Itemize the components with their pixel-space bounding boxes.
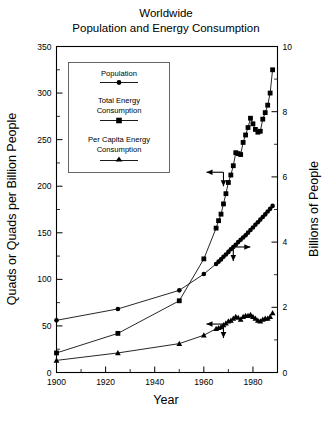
data-point-square bbox=[214, 226, 219, 231]
y-tick-label-left: 100 bbox=[37, 274, 51, 284]
x-axis-label: Year bbox=[153, 393, 178, 407]
legend-marker-square-icon bbox=[116, 118, 122, 124]
legend-marker-circle-icon bbox=[117, 80, 122, 85]
y-axis-ticks-right: 0246810 bbox=[272, 42, 293, 378]
x-tick-label: 1980 bbox=[243, 377, 262, 387]
data-point-square bbox=[221, 202, 226, 207]
arrow-head-vertical bbox=[231, 255, 237, 261]
chart-title-line2: Population and Energy Consumption bbox=[72, 22, 259, 34]
y-tick-label-right: 0 bbox=[283, 368, 288, 378]
data-point-square bbox=[241, 140, 246, 145]
legend-label-per-capita-line2: Consumption bbox=[97, 145, 142, 154]
legend-box bbox=[69, 63, 170, 173]
y-axis-ticks-left: 050100150200250300350 bbox=[37, 42, 62, 378]
y-tick-label-right: 10 bbox=[283, 42, 293, 52]
legend-label-population: Population bbox=[101, 69, 137, 78]
data-point-square bbox=[177, 298, 182, 303]
y-tick-label-right: 2 bbox=[283, 302, 288, 312]
data-point-circle bbox=[270, 204, 275, 209]
chart-legend: Population Total Energy Consumption Per … bbox=[69, 63, 170, 173]
data-point-square bbox=[219, 212, 224, 217]
data-point-square bbox=[251, 121, 256, 126]
x-axis-ticks: 19001920194019601980 bbox=[47, 367, 277, 387]
data-point-circle bbox=[116, 307, 121, 312]
data-point-circle bbox=[202, 272, 207, 277]
chart-figure: Worldwide Population and Energy Consumpt… bbox=[0, 0, 328, 421]
chart-title-line1: Worldwide bbox=[139, 7, 192, 19]
y-axis-label-left: Quads or Quads per Billion People bbox=[5, 113, 19, 306]
data-point-triangle bbox=[270, 310, 276, 315]
arrow-head-horizontal bbox=[206, 321, 212, 327]
arrow-head-vertical bbox=[221, 180, 227, 186]
y-tick-label-left: 300 bbox=[37, 88, 51, 98]
legend-label-per-capita-line1: Per Capita Energy bbox=[88, 135, 150, 144]
arrow-head-horizontal bbox=[244, 244, 250, 250]
data-point-circle bbox=[54, 318, 59, 323]
data-point-square bbox=[228, 173, 233, 178]
data-point-square bbox=[224, 191, 229, 196]
data-point-square bbox=[201, 256, 206, 261]
data-point-square bbox=[263, 110, 268, 115]
y-tick-label-right: 8 bbox=[283, 107, 288, 117]
data-point-square bbox=[268, 91, 273, 96]
legend-label-total-energy-line2: Consumption bbox=[97, 106, 142, 115]
data-point-square bbox=[238, 152, 243, 157]
right-axis-arrow-population bbox=[231, 244, 251, 261]
arrow-head-horizontal bbox=[206, 169, 212, 175]
x-tick-label: 1960 bbox=[194, 377, 213, 387]
data-point-square bbox=[226, 180, 231, 185]
data-point-square bbox=[270, 67, 275, 72]
data-point-square bbox=[260, 117, 265, 122]
data-point-triangle bbox=[201, 332, 207, 337]
y-tick-label-right: 4 bbox=[283, 237, 288, 247]
data-point-square bbox=[248, 116, 253, 121]
y-axis-label-right: Billions of People bbox=[307, 161, 321, 257]
x-tick-label: 1900 bbox=[47, 377, 66, 387]
left-axis-arrow-energy bbox=[206, 169, 226, 186]
y-tick-label-right: 6 bbox=[283, 172, 288, 182]
data-point-square bbox=[216, 218, 221, 223]
y-tick-label-left: 200 bbox=[37, 181, 51, 191]
y-tick-label-left: 350 bbox=[37, 42, 51, 52]
data-point-circle bbox=[177, 288, 182, 293]
series-line bbox=[57, 206, 273, 320]
x-tick-label: 1940 bbox=[145, 377, 164, 387]
x-tick-label: 1920 bbox=[96, 377, 115, 387]
data-point-square bbox=[246, 125, 251, 130]
data-point-square bbox=[54, 351, 59, 356]
legend-label-total-energy-line1: Total Energy bbox=[98, 96, 140, 105]
series-circle bbox=[54, 204, 275, 323]
data-point-square bbox=[258, 129, 263, 134]
data-point-square bbox=[243, 133, 248, 138]
series-triangle bbox=[54, 310, 276, 363]
y-tick-label-left: 0 bbox=[47, 368, 52, 378]
y-tick-label-left: 250 bbox=[37, 135, 51, 145]
data-point-square bbox=[265, 103, 270, 108]
y-tick-label-left: 50 bbox=[42, 321, 52, 331]
data-point-square bbox=[115, 331, 120, 336]
arrow-head-vertical bbox=[221, 332, 227, 338]
y-tick-label-left: 150 bbox=[37, 228, 51, 238]
data-point-square bbox=[231, 163, 236, 168]
